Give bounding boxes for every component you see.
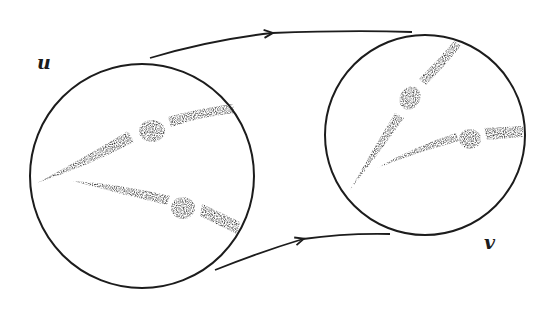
label-u: u (37, 53, 51, 72)
streak-u-lower-segment (200, 204, 240, 234)
streak-u-upper-segment (168, 104, 234, 127)
label-v: v (484, 233, 495, 252)
streak-v-upper-blob (395, 83, 424, 114)
streak-u-lower-blob (171, 197, 195, 219)
streak-u-lower-wedge (73, 181, 170, 205)
top-arrow (150, 31, 412, 58)
diagram-svg (0, 0, 549, 310)
bottom-arrow-shaft-start (215, 239, 303, 270)
stipple-streaks-u (37, 104, 240, 234)
neighborhood-v (325, 35, 525, 235)
streak-v-lower-segment (484, 126, 523, 140)
diagram-canvas: u v (0, 0, 549, 310)
stipple-streaks-v (350, 41, 523, 190)
top-arrow-shaft-end (272, 31, 412, 33)
bottom-arrow (215, 234, 390, 270)
bottom-arrow-shaft-end (303, 234, 390, 239)
circle-u (30, 64, 254, 288)
streak-u-upper-blob (139, 120, 165, 142)
streak-v-upper-wedge (350, 113, 404, 190)
top-arrow-shaft-start (150, 33, 272, 58)
streak-v-lower-blob (459, 129, 481, 149)
streak-u-upper-wedge (37, 131, 134, 183)
neighborhood-u (30, 64, 254, 288)
streak-v-upper-segment (419, 41, 461, 85)
